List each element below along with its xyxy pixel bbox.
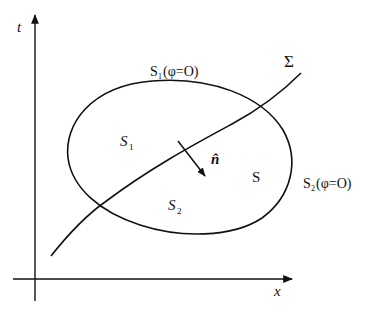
svg-text:S: S	[303, 176, 311, 191]
region-s2-label: S 2	[168, 197, 182, 216]
svg-text:2: 2	[311, 184, 315, 193]
svg-text:1: 1	[158, 72, 162, 81]
boundary-s2-label: S 2 (φ=O)	[303, 176, 352, 193]
sigma-label: Σ	[284, 52, 294, 71]
svg-text:S: S	[120, 133, 128, 149]
svg-text:(φ=O): (φ=O)	[163, 64, 199, 80]
region-s1-label: S 1	[120, 133, 134, 152]
sigma-curve	[51, 73, 301, 256]
x-axis-label: x	[273, 283, 281, 299]
svg-text:S: S	[168, 197, 176, 213]
region-s-label: S	[252, 169, 260, 185]
boundary-s1-label: S 1 (φ=O)	[150, 64, 199, 81]
svg-text:2: 2	[177, 206, 182, 216]
normal-label: n̂	[211, 151, 219, 167]
spacetime-surface-diagram: t x Σ n̂ S S 1 S 2 S 1 (φ=O) S 2 (φ=O)	[0, 0, 367, 316]
svg-text:S: S	[150, 64, 158, 79]
svg-text:(φ=O): (φ=O)	[316, 176, 352, 192]
t-axis-label: t	[17, 19, 22, 35]
svg-text:1: 1	[129, 142, 134, 152]
